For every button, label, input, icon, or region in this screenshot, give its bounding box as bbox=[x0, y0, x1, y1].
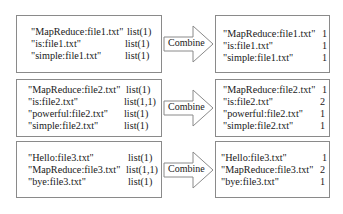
combine-label: Combine bbox=[168, 163, 205, 175]
combine-arrow: Combine bbox=[163, 88, 215, 128]
output-value: 1 bbox=[322, 28, 327, 40]
map-output-box-file3: "Hello:file3.txt" list(1) "MapReduce:fil… bbox=[16, 141, 162, 198]
combine-output-box-file3: "Hello:file3.txt" 1 "MapReduce:file3.txt… bbox=[215, 141, 330, 198]
input-value: list(1) bbox=[124, 120, 148, 132]
output-key: "MapReduce:file2.txt" bbox=[223, 84, 315, 96]
combine-label: Combine bbox=[168, 101, 205, 113]
output-key: "MapReduce:file3.txt" bbox=[221, 164, 313, 176]
input-value: list(1) bbox=[125, 50, 149, 62]
input-key: "Hello:file3.txt" bbox=[28, 152, 94, 164]
output-value: 1 bbox=[322, 40, 327, 52]
map-output-box-file1: "MapReduce:file1.txt" list(1) "is:file1.… bbox=[16, 15, 162, 73]
output-key: "is:file1.txt" bbox=[223, 40, 273, 52]
combine-output-box-file1: "MapReduce:file1.txt" 1 "is:file1.txt" 1… bbox=[215, 15, 330, 73]
input-value: list(1,1) bbox=[124, 96, 156, 108]
input-value: list(1) bbox=[125, 38, 149, 50]
output-value: 1 bbox=[320, 176, 325, 188]
input-value: list(1) bbox=[124, 108, 148, 120]
input-value: list(1,1) bbox=[126, 164, 158, 176]
combine-arrow: Combine bbox=[163, 24, 215, 64]
input-key: "simple:file2.txt" bbox=[28, 120, 98, 132]
output-value: 1 bbox=[320, 120, 325, 132]
output-value: 1 bbox=[322, 152, 327, 164]
output-key: "powerful:file2.txt" bbox=[223, 108, 303, 120]
output-value: 1 bbox=[322, 84, 327, 96]
combine-output-box-file2: "MapReduce:file2.txt" 1 "is:file2.txt" 2… bbox=[215, 79, 330, 137]
output-key: "Hello:file3.txt" bbox=[221, 152, 287, 164]
input-value: list(1) bbox=[126, 84, 150, 96]
combine-arrow: Combine bbox=[163, 150, 215, 190]
output-value: 2 bbox=[320, 164, 325, 176]
output-key: "bye:file3.txt" bbox=[221, 176, 279, 188]
output-value: 2 bbox=[320, 96, 325, 108]
output-key: "MapReduce:file1.txt" bbox=[223, 28, 315, 40]
output-key: "simple:file1.txt" bbox=[223, 52, 293, 64]
combine-label: Combine bbox=[168, 37, 205, 49]
input-value: list(1) bbox=[128, 176, 152, 188]
input-key: "is:file2.txt" bbox=[28, 96, 78, 108]
output-key: "is:file2.txt" bbox=[223, 96, 273, 108]
output-key: "simple:file2.txt" bbox=[223, 120, 293, 132]
input-key: "powerful:file2.txt" bbox=[28, 108, 108, 120]
input-value: list(1) bbox=[128, 152, 152, 164]
output-value: 1 bbox=[320, 108, 325, 120]
input-key: "bye:file3.txt" bbox=[28, 176, 86, 188]
input-key: "is:file1.txt" bbox=[31, 38, 81, 50]
input-key: "MapReduce:file1.txt" bbox=[31, 26, 123, 38]
input-value: list(1) bbox=[127, 26, 151, 38]
input-key: "MapReduce:file3.txt" bbox=[28, 164, 120, 176]
output-value: 1 bbox=[322, 52, 327, 64]
map-output-box-file2: "MapReduce:file2.txt" list(1) "is:file2.… bbox=[16, 79, 162, 137]
input-key: "MapReduce:file2.txt" bbox=[28, 84, 120, 96]
input-key: "simple:file1.txt" bbox=[31, 50, 101, 62]
